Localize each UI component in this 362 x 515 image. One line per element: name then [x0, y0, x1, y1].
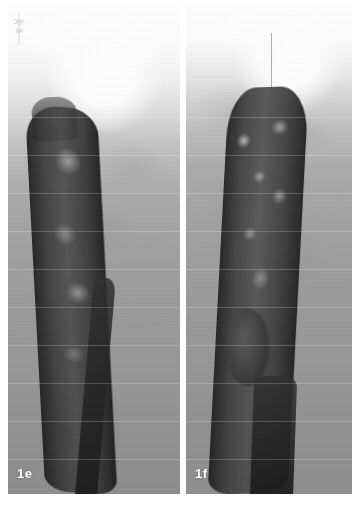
xray-background-1f [186, 4, 352, 494]
xray-background-1e [8, 4, 180, 494]
panel-label-1f: 1f [195, 467, 207, 480]
catheter-wire [271, 33, 272, 92]
panel-label-1e: 1e [17, 467, 32, 480]
panel-divider [180, 0, 186, 515]
radiograph-panel-1f[interactable]: 1f [186, 4, 352, 494]
radiograph-panel-1e[interactable]: 1e [8, 4, 180, 494]
radiopaque-marker-icon [12, 12, 26, 46]
figure-root: 1e 1f [0, 0, 362, 515]
